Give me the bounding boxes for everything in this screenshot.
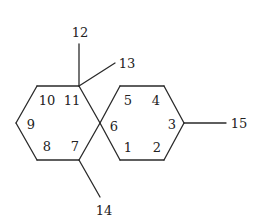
chemical-structure-diagram: 123456789101112131415 <box>0 0 255 224</box>
atom-label-3: 3 <box>168 117 176 132</box>
spiro-molecule-svg: 123456789101112131415 <box>0 0 255 224</box>
atom-label-9: 9 <box>27 117 35 132</box>
atom-label-10: 10 <box>39 93 56 108</box>
atom-label-1: 1 <box>124 140 132 155</box>
atom-label-11: 11 <box>64 93 81 108</box>
atom-number-labels: 123456789101112131415 <box>27 25 247 218</box>
atom-label-6: 6 <box>110 119 118 134</box>
bond-c11-c6 <box>79 86 100 123</box>
atom-label-2: 2 <box>153 140 161 155</box>
bond-c11-c13 <box>79 63 115 86</box>
bond-c5-c6 <box>100 86 120 123</box>
bond-c7-c14 <box>79 160 100 197</box>
atom-label-15: 15 <box>231 116 248 131</box>
atom-label-5: 5 <box>124 93 132 108</box>
atom-label-7: 7 <box>71 139 79 154</box>
atom-label-12: 12 <box>72 25 89 40</box>
atom-label-13: 13 <box>119 56 136 71</box>
atom-label-8: 8 <box>43 139 51 154</box>
bond-c6-c7 <box>79 123 100 160</box>
atom-label-14: 14 <box>96 203 113 218</box>
atom-label-4: 4 <box>152 93 160 108</box>
